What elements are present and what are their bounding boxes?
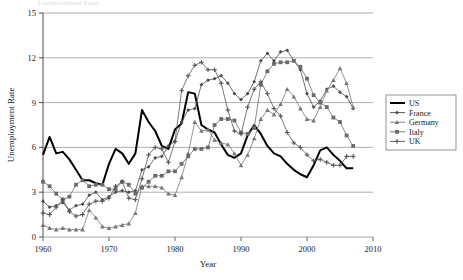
data-point-marker <box>318 105 323 109</box>
x-axis-tick-label: 2000 <box>299 244 316 254</box>
data-point-marker <box>312 93 316 97</box>
series-line-italy <box>43 61 353 200</box>
data-point-marker <box>252 126 256 130</box>
data-point-marker <box>272 112 277 116</box>
data-point-marker <box>133 211 138 215</box>
unemployment-rate-chart: Unemployment Rates0369121519601970198019… <box>0 0 463 280</box>
legend-label-uk: UK <box>409 137 421 146</box>
data-point-marker <box>219 117 223 121</box>
data-point-marker <box>213 123 217 127</box>
data-point-marker <box>305 117 310 121</box>
data-point-marker <box>265 108 270 112</box>
x-axis-tick-label: 1970 <box>101 244 118 254</box>
data-point-marker <box>226 117 230 121</box>
data-point-marker <box>193 147 197 151</box>
data-point-marker <box>345 134 349 138</box>
data-point-marker <box>292 59 296 63</box>
cropped-top-text: Unemployment Rates <box>38 0 99 7</box>
data-point-marker <box>193 107 197 111</box>
series-line-uk <box>43 62 353 216</box>
data-point-marker <box>298 106 303 110</box>
x-axis-tick-label: 1990 <box>233 244 250 254</box>
legend-label-germany: Germany <box>409 118 439 127</box>
data-point-marker <box>272 62 276 66</box>
data-point-marker <box>127 183 131 187</box>
data-point-marker <box>338 66 343 70</box>
data-point-marker <box>87 208 92 212</box>
legend-label-us: US <box>409 99 419 108</box>
y-axis-tick-label: 9 <box>32 98 36 108</box>
data-point-marker <box>140 168 144 172</box>
series-line-us <box>43 92 353 185</box>
x-axis-tick-label: 2010 <box>365 244 382 254</box>
data-point-marker <box>246 132 250 136</box>
data-point-marker <box>87 184 91 188</box>
data-point-marker <box>305 77 309 81</box>
data-point-marker <box>41 223 46 227</box>
data-point-marker <box>180 162 184 166</box>
data-point-marker <box>285 60 289 64</box>
legend-label-france: France <box>409 109 431 118</box>
data-point-marker <box>127 221 132 225</box>
data-point-marker <box>94 183 98 187</box>
chart-canvas: Unemployment Rates0369121519601970198019… <box>0 0 463 280</box>
data-point-marker <box>285 48 289 52</box>
data-point-marker <box>47 226 52 230</box>
data-point-marker <box>213 77 217 81</box>
data-point-marker <box>212 138 217 142</box>
data-point-marker <box>299 65 303 69</box>
data-point-marker <box>74 183 78 187</box>
x-axis-tick-label: 1980 <box>167 244 184 254</box>
data-point-marker <box>41 180 45 184</box>
data-point-marker <box>395 130 399 134</box>
data-point-marker <box>344 81 349 85</box>
data-point-marker <box>266 69 270 73</box>
y-axis-tick-label: 0 <box>32 232 36 242</box>
data-point-marker <box>160 154 164 158</box>
y-axis-title: Unemployment Rate <box>6 88 16 163</box>
data-point-marker <box>140 186 144 190</box>
y-axis-tick-label: 3 <box>32 187 36 197</box>
data-point-marker <box>48 184 52 188</box>
data-point-marker <box>193 120 198 124</box>
data-point-marker <box>127 190 131 194</box>
data-point-marker <box>167 169 171 173</box>
data-point-marker <box>61 226 66 230</box>
y-axis-tick-label: 12 <box>28 53 37 63</box>
data-point-marker <box>173 169 177 173</box>
data-point-marker <box>252 136 257 140</box>
data-point-marker <box>107 187 111 191</box>
data-point-marker <box>186 108 190 112</box>
y-axis-tick-label: 6 <box>32 142 36 152</box>
data-point-marker <box>331 78 336 82</box>
data-point-marker <box>252 80 256 84</box>
data-point-marker <box>305 92 309 96</box>
data-point-marker <box>153 174 157 178</box>
data-point-marker <box>200 147 204 151</box>
data-point-marker <box>54 192 58 196</box>
data-point-marker <box>186 154 190 158</box>
data-point-marker <box>68 195 72 199</box>
data-point-marker <box>147 180 151 184</box>
data-point-marker <box>101 183 105 187</box>
data-point-marker <box>325 105 329 109</box>
data-point-marker <box>318 101 322 105</box>
data-point-marker <box>279 60 283 64</box>
data-point-marker <box>351 144 355 148</box>
x-axis-tick-label: 1960 <box>35 244 52 254</box>
data-point-marker <box>160 174 164 178</box>
data-point-marker <box>206 146 210 150</box>
y-axis-tick-label: 15 <box>28 8 37 18</box>
data-point-marker <box>338 120 342 124</box>
x-axis-title: Year <box>200 259 217 269</box>
data-point-marker <box>239 163 244 167</box>
data-point-marker <box>179 175 184 179</box>
data-point-marker <box>285 87 290 91</box>
data-point-marker <box>332 116 336 120</box>
data-point-marker <box>81 178 85 182</box>
data-point-marker <box>245 153 250 157</box>
legend-label-italy: Italy <box>409 128 424 137</box>
data-point-marker <box>233 119 237 123</box>
